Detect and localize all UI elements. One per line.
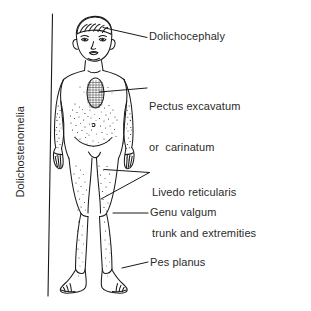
label-pectus-line2: or carinatum xyxy=(149,141,240,155)
label-dolichostenomelia: Dolichostenomelia xyxy=(14,87,28,217)
label-dolichocephaly: Dolichocephaly xyxy=(149,30,225,44)
label-livedo-line1: Livedo reticularis xyxy=(152,186,256,200)
label-pectus-line1: Pectus excavatum xyxy=(149,100,240,114)
label-pes-planus: Pes planus xyxy=(150,256,205,270)
label-livedo-line2: trunk and extremities xyxy=(152,227,256,241)
pupil-left xyxy=(83,38,86,41)
label-genu-valgum: Genu valgum xyxy=(150,206,217,220)
label-pectus-excavatum-or-carinatum: Pectus excavatum or carinatum xyxy=(149,73,240,168)
pupil-right xyxy=(101,38,104,41)
